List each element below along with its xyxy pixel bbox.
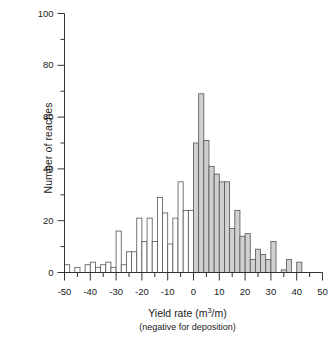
x-axis-tick-label: -10 [154,286,182,297]
histogram-bar [121,265,126,273]
histogram-bar [132,252,137,273]
histogram-figure: Number of reaches Yield rate (m3/m) (neg… [0,0,333,342]
histogram-bar [106,262,111,272]
histogram-bar [261,254,266,272]
histogram-bar [224,182,229,273]
x-axis-tick-label: 20 [231,286,259,297]
histogram-bar [235,210,240,272]
histogram-bar [147,218,152,272]
histogram-bar [219,182,224,273]
histogram-bar [178,182,183,273]
histogram-bar [137,218,142,272]
histogram-bar [168,244,173,272]
histogram-bar [255,249,260,272]
histogram-bar [209,166,214,272]
x-axis-tick-label: 0 [180,286,208,297]
histogram-bar [101,265,106,273]
histogram-bar [240,236,245,272]
x-axis-subtitle: (negative for deposition) [50,322,325,332]
histogram-bar [157,197,162,272]
x-axis-tick-label: -50 [51,286,79,297]
histogram-bar [266,260,271,273]
histogram-bar [286,260,291,273]
bars-group [65,94,302,273]
histogram-bar [142,241,147,272]
histogram-bar [250,260,255,273]
y-axis-tick-label: 80 [28,59,54,70]
histogram-bar [116,231,121,272]
histogram-bar [297,262,302,272]
histogram-bar [245,234,250,273]
x-axis-tick-label: 10 [205,286,233,297]
histogram-bar [173,218,178,272]
x-axis-title-pre: Yield rate (m [148,307,207,319]
histogram-bar [188,210,193,272]
y-axis-tick-label: 60 [28,111,54,122]
histogram-bar [230,228,235,272]
x-axis-tick-label: 30 [257,286,285,297]
histogram-bar [194,143,199,273]
histogram-bar [183,210,188,272]
histogram-bar [95,267,100,272]
x-axis-tick-label: -40 [76,286,104,297]
y-axis-tick-label: 100 [28,8,54,19]
x-axis-tick-label: -30 [102,286,130,297]
y-axis-tick-label: 0 [28,267,54,278]
x-axis-tick-label: 50 [309,286,333,297]
histogram-bar [214,174,219,272]
histogram-bar [199,94,204,273]
histogram-bar [90,262,95,272]
histogram-bar [204,140,209,272]
histogram-bar [111,267,116,272]
x-axis-tick-label: 40 [283,286,311,297]
histogram-bar [126,252,131,273]
histogram-bar [163,213,168,273]
x-axis-tick-label: -20 [128,286,156,297]
y-axis-tick-label: 40 [28,163,54,174]
histogram-bar [85,265,90,273]
histogram-bar [152,241,157,272]
histogram-bar [271,241,276,272]
y-axis-tick-label: 20 [28,215,54,226]
histogram-bar [75,267,80,272]
x-axis-title: Yield rate (m3/m) [50,307,325,319]
x-axis-title-post: /m) [212,307,227,319]
histogram-bar [65,265,70,273]
